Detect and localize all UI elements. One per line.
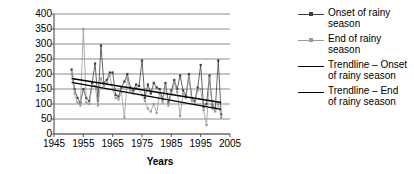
data-point-marker (188, 76, 190, 78)
data-point-marker (71, 68, 73, 70)
data-point-marker (85, 101, 87, 103)
data-point-marker (138, 85, 140, 87)
data-point-marker (205, 103, 207, 105)
data-point-marker (109, 74, 111, 76)
data-point-marker (179, 115, 181, 117)
data-point-marker (150, 92, 152, 94)
legend-item: Trendline – Onsetof rainy season (298, 60, 414, 81)
data-point-marker (129, 89, 131, 91)
data-point-marker (76, 97, 78, 99)
data-point-marker (188, 73, 190, 75)
legend-key-icon (298, 9, 324, 21)
data-point-marker (126, 73, 128, 75)
data-point-marker (203, 109, 205, 111)
data-point-marker (147, 83, 149, 85)
legend-label: End of rainyseason (328, 34, 381, 55)
legend-label: Onset of rainyseason (328, 8, 390, 29)
data-point-marker (100, 44, 102, 46)
legend-label-line1: End of rainy (328, 34, 381, 45)
data-point-marker (167, 104, 169, 106)
data-point-marker (97, 104, 99, 106)
data-point-marker (173, 82, 175, 84)
legend-label-line2: of rainy season (328, 71, 407, 82)
data-point-marker (123, 80, 125, 82)
legend-label-line2: of rainy season (328, 97, 398, 108)
data-point-marker (197, 86, 199, 88)
data-point-marker (176, 91, 178, 93)
data-point-marker (153, 82, 155, 84)
data-point-marker (208, 77, 210, 79)
legend-key-icon (298, 61, 324, 73)
data-point-marker (159, 88, 161, 90)
data-point-marker (141, 59, 143, 61)
data-point-marker (205, 124, 207, 126)
data-point-marker (82, 28, 84, 30)
x-axis-tick-label: 2005 (210, 138, 250, 149)
data-point-marker (71, 73, 73, 75)
data-point-marker (123, 116, 125, 118)
legend-label-line2: season (328, 45, 381, 56)
legend-label-line2: season (328, 19, 390, 30)
legend-item: End of rainyseason (298, 34, 414, 55)
data-point-marker (161, 101, 163, 103)
legend-key-icon (298, 35, 324, 47)
legend-item: Trendline – Endof rainy season (298, 86, 414, 107)
data-point-marker (179, 74, 181, 76)
data-point-marker (135, 83, 137, 85)
data-point-marker (76, 101, 78, 103)
data-point-marker (103, 85, 105, 87)
legend-label-line1: Trendline – End (328, 86, 398, 97)
data-point-marker (208, 74, 210, 76)
data-point-marker (197, 89, 199, 91)
legend-label: Trendline – Onsetof rainy season (328, 60, 407, 81)
data-point-marker (100, 77, 102, 79)
data-point-marker (73, 92, 75, 94)
data-point-marker (220, 116, 222, 118)
data-point-marker (156, 86, 158, 88)
data-point-marker (173, 79, 175, 81)
data-point-marker (156, 112, 158, 114)
data-point-marker (217, 103, 219, 105)
data-point-marker (147, 107, 149, 109)
data-point-marker (191, 100, 193, 102)
data-point-marker (144, 100, 146, 102)
legend-label-line1: Onset of rainy (328, 8, 390, 19)
chart-legend: Onset of rainyseasonEnd of rainyseasonTr… (298, 8, 414, 112)
data-point-marker (217, 59, 219, 61)
data-point-marker (126, 77, 128, 79)
legend-label-line1: Trendline – Onset (328, 60, 407, 71)
data-point-marker (94, 62, 96, 64)
data-point-marker (115, 97, 117, 99)
legend-item: Onset of rainyseason (298, 8, 414, 29)
data-point-marker (150, 110, 152, 112)
legend-key-icon (298, 87, 324, 99)
data-point-marker (164, 85, 166, 87)
data-point-marker (214, 110, 216, 112)
data-point-marker (200, 64, 202, 66)
data-point-marker (109, 71, 111, 73)
data-point-marker (182, 92, 184, 94)
data-point-marker (164, 82, 166, 84)
data-point-marker (200, 88, 202, 90)
rainfall-chart-figure: Annual rainfall (mm) 0501001502002503003… (0, 0, 414, 174)
data-point-marker (182, 89, 184, 91)
data-point-marker (153, 103, 155, 105)
data-point-marker (112, 71, 114, 73)
data-point-marker (79, 104, 81, 106)
legend-label: Trendline – Endof rainy season (328, 86, 398, 107)
data-point-marker (88, 103, 90, 105)
data-point-marker (117, 98, 119, 100)
data-point-marker (82, 88, 84, 90)
